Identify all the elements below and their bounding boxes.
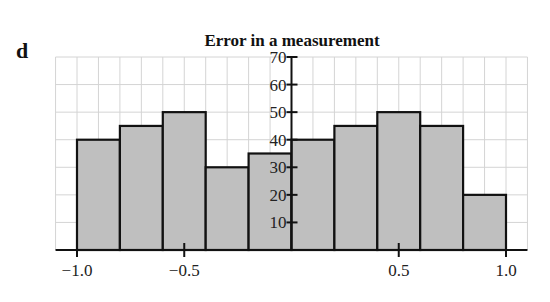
chart-title: Error in a measurement [204, 31, 380, 50]
panel-label: d [16, 38, 28, 63]
x-tick-label: 1.0 [495, 261, 516, 280]
y-tick-label: 60 [270, 76, 287, 95]
x-tick-label: −0.5 [169, 261, 200, 280]
histogram-bar [206, 167, 249, 250]
histogram-bar [120, 126, 163, 250]
histogram-bar [463, 195, 506, 250]
y-tick-label: 30 [270, 158, 287, 177]
y-tick-label: 50 [270, 103, 287, 122]
histogram-bar [334, 126, 377, 250]
y-tick-label: 10 [270, 213, 287, 232]
y-tick-label: 70 [270, 48, 287, 67]
histogram-chart: d Error in a measurement −1.0−0.50.51.0 … [0, 0, 550, 302]
histogram-bar [292, 140, 335, 250]
x-tick-label: −1.0 [62, 261, 93, 280]
histogram-bar [77, 140, 120, 250]
y-tick-label: 20 [270, 186, 287, 205]
histogram-bar [420, 126, 463, 250]
histogram-bar [377, 112, 420, 250]
x-tick-label: 0.5 [388, 261, 409, 280]
y-tick-label: 40 [270, 131, 287, 150]
histogram-bar [163, 112, 206, 250]
